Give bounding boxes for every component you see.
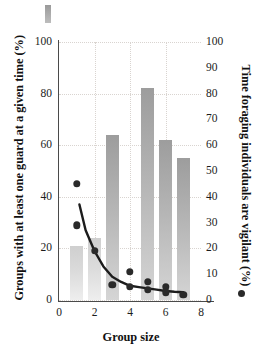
- y-axis-right-tick-label: 100: [206, 36, 223, 48]
- y-axis-right-tick-label: 90: [206, 62, 218, 74]
- x-axis-line: [58, 301, 214, 302]
- corner-bar-glyph: [45, 5, 51, 23]
- scatter-point: [73, 221, 80, 228]
- gridline-horizontal: [59, 300, 201, 301]
- scatter-point: [180, 291, 187, 298]
- scatter-point: [144, 286, 151, 293]
- scatter-point: [126, 268, 133, 275]
- y-axis-right-tick-label: 10: [206, 268, 218, 280]
- y-axis-right-tick-label: 40: [206, 191, 218, 203]
- y-axis-right-tick-label: 60: [206, 139, 218, 151]
- plot-area: [59, 42, 201, 300]
- y-axis-right-tick-label: 0: [206, 294, 212, 306]
- y-axis-right-tick-label: 80: [206, 88, 218, 100]
- y-axis-left-title: Groups with at least one guard at a give…: [12, 51, 27, 301]
- scatter-point: [91, 247, 98, 254]
- scatter-point: [144, 278, 151, 285]
- y-axis-right-tick-label: 30: [206, 217, 218, 229]
- scatter-point: [126, 283, 133, 290]
- y-axis-right-title: Time foraging individuals are vigilant (…: [238, 51, 253, 301]
- x-axis-tick-label: 8: [198, 307, 204, 319]
- x-axis-tick-label: 0: [56, 307, 62, 319]
- y-axis-right-tick-label: 20: [206, 243, 218, 255]
- caption-text: [0, 348, 262, 357]
- x-axis-title: Group size: [0, 330, 262, 345]
- y-axis-right-tick-label: 70: [206, 114, 218, 126]
- y-axis-right-tick-label: 50: [206, 165, 218, 177]
- scatter-point: [73, 180, 80, 187]
- scatter-point: [162, 289, 169, 296]
- x-axis-tick-label: 6: [163, 307, 169, 319]
- scatter-point: [109, 281, 116, 288]
- chart-figure: 020406080100 0102030405060708090100 0246…: [0, 0, 262, 357]
- x-axis-tick-label: 2: [92, 307, 98, 319]
- scatter-series: [59, 42, 201, 300]
- x-axis-tick-label: 4: [127, 307, 133, 319]
